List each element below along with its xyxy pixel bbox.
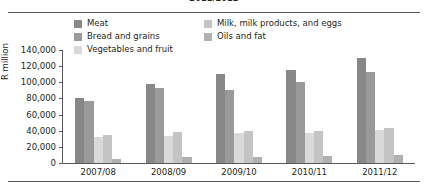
- chart-figure: 2011/2012 MeatBread and grainsVegetables…: [0, 0, 428, 190]
- legend-item-meat[interactable]: Meat: [74, 17, 173, 30]
- bar[interactable]: [305, 133, 314, 163]
- legend-swatch-icon: [204, 33, 212, 41]
- bar[interactable]: [253, 157, 262, 163]
- y-tick-label: 20,000: [10, 143, 56, 151]
- x-tick-label: 2008/09: [133, 167, 203, 177]
- bar[interactable]: [94, 137, 103, 163]
- bar[interactable]: [375, 130, 384, 163]
- bar-group: [204, 50, 274, 163]
- legend-item-bread-and-grains[interactable]: Bread and grains: [74, 30, 173, 43]
- bar[interactable]: [216, 74, 225, 163]
- bar-group: [274, 50, 344, 163]
- y-tick-label: 60,000: [10, 111, 56, 119]
- top-rule: [8, 12, 420, 13]
- bar[interactable]: [234, 133, 243, 163]
- legend-label: Oils and fat: [217, 32, 266, 41]
- y-tick-label: 100,000: [10, 78, 56, 86]
- y-tick-label: 140,000: [10, 46, 56, 54]
- bar-group: [63, 50, 133, 163]
- bar[interactable]: [244, 131, 253, 163]
- bar-group: [133, 50, 203, 163]
- bar[interactable]: [155, 88, 164, 163]
- bar[interactable]: [75, 98, 84, 163]
- bar[interactable]: [146, 84, 155, 163]
- x-tick-label: 2007/08: [63, 167, 133, 177]
- bar[interactable]: [84, 101, 93, 163]
- y-tick-label: 120,000: [10, 62, 56, 70]
- bar[interactable]: [357, 58, 366, 163]
- bar[interactable]: [112, 159, 121, 163]
- x-tick-label: 2009/10: [204, 167, 274, 177]
- bar[interactable]: [103, 135, 112, 163]
- bar[interactable]: [173, 132, 182, 163]
- bar[interactable]: [296, 82, 305, 163]
- y-axis-title: R million: [0, 43, 10, 80]
- bar[interactable]: [225, 90, 234, 163]
- bar[interactable]: [286, 70, 295, 163]
- x-tick-label: 2010/11: [274, 167, 344, 177]
- chart-title-sliver: 2011/2012: [0, 0, 428, 4]
- bar-groups: 2007/082008/092009/102010/112011/12: [63, 50, 415, 163]
- bar[interactable]: [394, 155, 403, 163]
- y-tick-label: 80,000: [10, 94, 56, 102]
- legend-item-oils-and-fat[interactable]: Oils and fat: [204, 30, 342, 43]
- y-tick-label: 0: [10, 159, 56, 167]
- y-tick-label: 40,000: [10, 127, 56, 135]
- bar[interactable]: [323, 156, 332, 163]
- legend-swatch-icon: [74, 20, 82, 28]
- legend-item-milk-milk-products-and-eggs[interactable]: Milk, milk products, and eggs: [204, 17, 342, 30]
- x-axis-line: [62, 163, 415, 164]
- bar[interactable]: [314, 131, 323, 163]
- legend-label: Bread and grains: [87, 32, 160, 41]
- legend-label: Milk, milk products, and eggs: [217, 19, 342, 28]
- bar-group: [345, 50, 415, 163]
- legend-label: Meat: [87, 19, 108, 28]
- legend-column-1: Milk, milk products, and eggsOils and fa…: [204, 17, 342, 43]
- bar[interactable]: [384, 128, 393, 164]
- bar[interactable]: [366, 72, 375, 163]
- y-axis-tick-labels: 140,000120,000100,00080,00060,00040,0002…: [10, 50, 56, 163]
- x-tick-label: 2011/12: [345, 167, 415, 177]
- bottom-rule: [8, 181, 420, 182]
- legend-swatch-icon: [204, 20, 212, 28]
- legend-swatch-icon: [74, 33, 82, 41]
- bar[interactable]: [182, 157, 191, 163]
- bar[interactable]: [164, 136, 173, 163]
- plot-area: R million 140,000120,000100,00080,00060,…: [62, 50, 415, 163]
